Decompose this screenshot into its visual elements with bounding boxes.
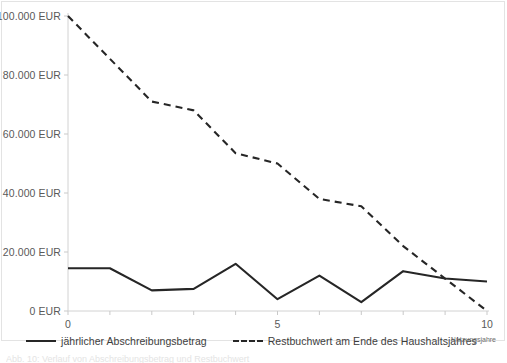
x-axis-caption: Nutzungsjahre (451, 336, 496, 343)
chart-figure: 0 EUR20.000 EUR40.000 EUR60.000 EUR80.00… (0, 0, 507, 363)
chart-canvas: 0 EUR20.000 EUR40.000 EUR60.000 EUR80.00… (0, 0, 507, 330)
series-line-residual-value (68, 16, 487, 311)
legend-key-solid-line-icon (26, 340, 56, 342)
legend-item-residual-value: Restbuchwert am Ende des Haushaltsjahres (233, 335, 477, 347)
legend-key-dashed-line-icon (233, 340, 263, 342)
y-tick-label: 80.000 EUR (3, 69, 62, 81)
x-tick-label: 5 (275, 318, 281, 330)
y-tick-label: 0 EUR (30, 305, 62, 317)
chart-legend: jährlicher Abschreibungsbetrag Restbuchw… (0, 332, 507, 350)
x-tick-label: 10 (481, 318, 493, 330)
legend-label-residual-value: Restbuchwert am Ende des Haushaltsjahres (268, 335, 477, 347)
y-tick-label: 100.000 EUR (0, 10, 61, 22)
figure-caption-cropped: Abb. 10: Verlauf von Abschreibungsbetrag… (6, 355, 501, 363)
series-line-depreciation (68, 264, 487, 302)
y-tick-label: 60.000 EUR (3, 128, 62, 140)
x-tick-label: 0 (65, 318, 71, 330)
legend-item-depreciation: jährlicher Abschreibungsbetrag (26, 335, 207, 347)
y-tick-label: 20.000 EUR (3, 246, 62, 258)
y-tick-label: 40.000 EUR (3, 187, 62, 199)
legend-label-depreciation: jährlicher Abschreibungsbetrag (61, 335, 207, 347)
plot-area: 0 EUR20.000 EUR40.000 EUR60.000 EUR80.00… (0, 0, 507, 330)
